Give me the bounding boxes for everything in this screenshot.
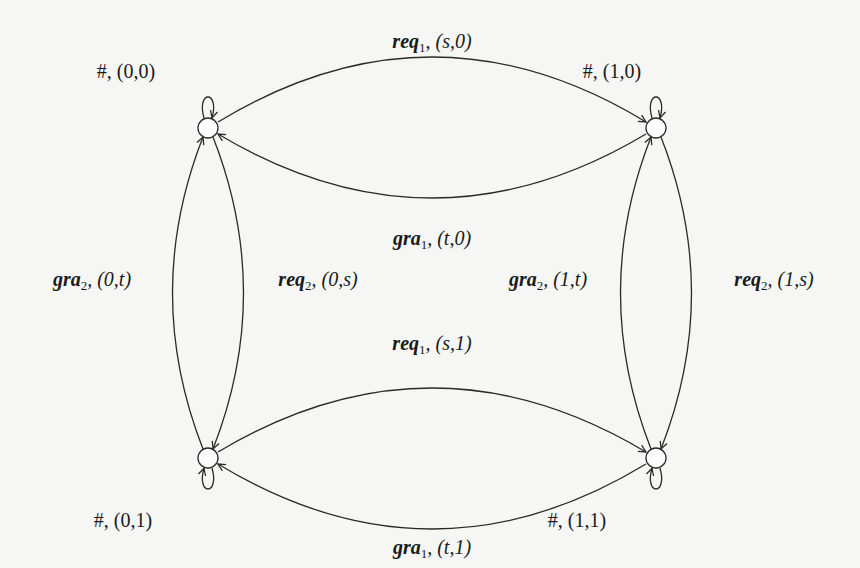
action-name: gra [393,227,421,249]
action-args: , (s,1) [426,332,472,354]
action-name: gra [393,536,421,558]
edge-gra2-0t [173,137,204,449]
edge-req2-1s [661,137,692,449]
edge-label-req1-s1: req1, (s,1) [392,332,471,358]
action-args: , (t,1) [427,536,471,558]
action-name: req [392,30,419,52]
action-args: , (0,t) [87,268,131,290]
action-args: , (1,t) [543,268,587,290]
action-args: , (0,s) [312,268,358,290]
edge-req1-s1 [218,388,646,452]
node-label-1-1: #, (1,1) [548,509,606,532]
action-name: gra [509,268,537,290]
edge-gra1-t0 [218,134,646,198]
node-1-0 [646,118,666,138]
self-loop-11 [650,468,661,489]
self-loop-00 [202,97,213,118]
edge-label-gra2-0t: gra2, (0,t) [53,268,131,294]
action-name: req [734,268,761,290]
node-0-0 [198,118,218,138]
edge-req1-s0 [218,57,646,122]
node-label-0-0: #, (0,0) [97,60,155,83]
node-label-0-1: #, (0,1) [94,509,152,532]
node-label-1-0: #, (1,0) [583,60,641,83]
edge-req2-0s [213,137,244,449]
edge-label-req2-0s: req2, (0,s) [278,268,357,294]
edge-label-gra2-1t: gra2, (1,t) [509,268,587,294]
action-args: , (1,s) [768,268,814,290]
edge-label-req2-1s: req2, (1,s) [734,268,813,294]
action-name: req [392,332,419,354]
action-name: gra [53,268,81,290]
action-name: req [278,268,305,290]
node-1-1 [646,448,666,468]
edge-label-gra1-t0: gra1, (t,0) [393,227,471,253]
node-0-1 [198,448,218,468]
action-args: , (t,0) [427,227,471,249]
edge-label-req1-s0: req1, (s,0) [392,30,471,56]
self-loop-01 [202,468,213,489]
edge-gra2-1t [621,137,652,449]
action-args: , (s,0) [426,30,472,52]
self-loop-10 [650,97,661,118]
edge-label-gra1-t1: gra1, (t,1) [393,536,471,562]
